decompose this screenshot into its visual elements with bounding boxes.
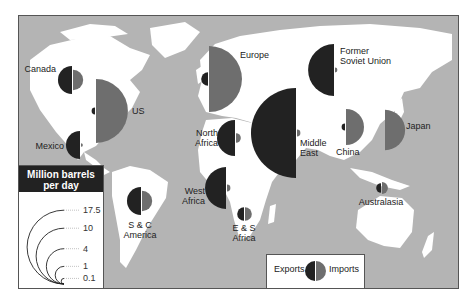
china-label: China <box>336 147 360 157</box>
e-s-africa-label: Africa <box>232 233 255 243</box>
middle-east-label: East <box>300 148 319 158</box>
former-soviet-union-label: Soviet Union <box>340 56 391 66</box>
mexico-label: Mexico <box>35 141 64 151</box>
size-legend-value: 0.1 <box>83 273 96 283</box>
west-africa-label: Africa <box>182 196 205 206</box>
size-legend-value: 10 <box>83 223 93 233</box>
middle-east-label: Middle <box>300 138 327 148</box>
size-legend-value: 4 <box>83 244 88 254</box>
e-s-africa-label: E & S <box>232 223 255 233</box>
oil-trade-map: CanadaUSMexicoS & CAmericaEuropeNorthAfr… <box>0 0 474 305</box>
australasia-label: Australasia <box>359 197 404 207</box>
size-legend: Million barrels per day 17.510410.1 <box>19 166 104 289</box>
key-legend: Exports Imports <box>267 255 365 289</box>
imports-label: Imports <box>329 264 360 274</box>
us-label: US <box>132 106 145 116</box>
s-c-america-label: S & C <box>128 220 152 230</box>
size-legend-title-2: per day <box>43 180 79 191</box>
s-c-america-label: America <box>123 230 156 240</box>
north-africa-label: North <box>196 128 218 138</box>
size-legend-title-1: Million barrels <box>27 169 95 180</box>
size-legend-value: 17.5 <box>83 205 101 215</box>
canada-label: Canada <box>24 64 56 74</box>
europe-label: Europe <box>240 50 269 60</box>
japan-label: Japan <box>406 121 431 131</box>
north-africa-label: Africa <box>195 138 218 148</box>
former-soviet-union-label: Former <box>340 46 369 56</box>
size-legend-value: 1 <box>83 261 88 271</box>
west-africa-label: West <box>185 186 206 196</box>
exports-label: Exports <box>274 264 305 274</box>
